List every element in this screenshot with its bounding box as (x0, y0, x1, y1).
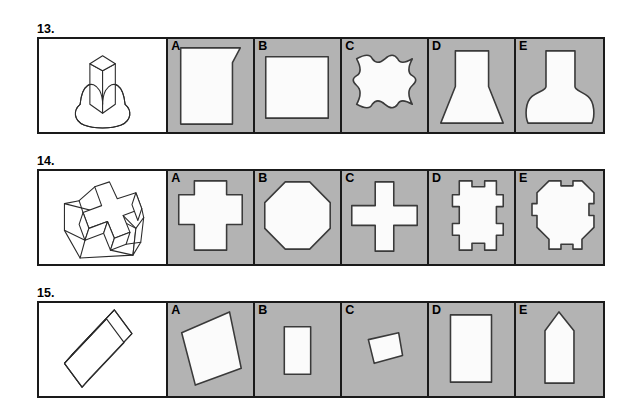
option-figure-b (255, 39, 340, 132)
option-panel-b[interactable]: B (255, 303, 342, 396)
option-figure-c (342, 39, 427, 132)
question-number: 13. (37, 22, 605, 37)
option-figure-a (168, 303, 253, 396)
option-letter: E (519, 303, 527, 317)
question-number: 15. (37, 286, 605, 301)
question-block-13: 13. A (37, 22, 605, 134)
option-figure-d (429, 171, 514, 264)
option-panel-a[interactable]: A (168, 39, 255, 132)
option-letter: C (345, 39, 354, 53)
option-letter: B (258, 303, 267, 317)
option-panel-c[interactable]: C (342, 39, 429, 132)
question-block-15: 15. A (37, 286, 605, 398)
stem-figure-slanted-slab (39, 303, 166, 396)
option-figure-b (255, 303, 340, 396)
option-letter: A (171, 39, 180, 53)
option-panel-d[interactable]: D (429, 303, 516, 396)
option-figure-d (429, 39, 514, 132)
option-letter: C (345, 171, 354, 185)
option-panel-e[interactable]: E (516, 171, 603, 264)
option-letter: D (432, 39, 441, 53)
stem-panel (39, 39, 168, 132)
option-panel-d[interactable]: D (429, 171, 516, 264)
question-row: A B C D (37, 37, 605, 134)
stem-figure-extruded-cross (39, 171, 166, 264)
option-letter: E (519, 171, 527, 185)
option-letter: A (171, 303, 180, 317)
option-figure-e (516, 39, 603, 132)
worksheet-sheet: 13. A (0, 0, 637, 415)
option-letter: C (345, 303, 354, 317)
option-letter: D (432, 171, 441, 185)
option-letter: D (432, 303, 441, 317)
option-figure-d (429, 303, 514, 396)
option-figure-c (342, 171, 427, 264)
option-panel-b[interactable]: B (255, 39, 342, 132)
option-letter: B (258, 39, 267, 53)
option-letter: B (258, 171, 267, 185)
option-figure-e (516, 171, 603, 264)
option-letter: E (519, 39, 527, 53)
stem-panel (39, 303, 168, 396)
option-figure-a (168, 171, 253, 264)
stem-panel (39, 171, 168, 264)
option-panel-a[interactable]: A (168, 171, 255, 264)
stem-figure-prism-on-dome (39, 39, 166, 132)
option-panel-a[interactable]: A (168, 303, 255, 396)
option-figure-c (342, 303, 427, 396)
option-panel-c[interactable]: C (342, 171, 429, 264)
option-figure-b (255, 171, 340, 264)
question-block-14: 14. (37, 154, 605, 266)
question-row: A B C D (37, 301, 605, 398)
option-figure-e (516, 303, 603, 396)
option-panel-b[interactable]: B (255, 171, 342, 264)
question-number: 14. (37, 154, 605, 169)
option-panel-c[interactable]: C (342, 303, 429, 396)
option-figure-a (168, 39, 253, 132)
question-row: A B C D (37, 169, 605, 266)
option-panel-e[interactable]: E (516, 303, 603, 396)
option-panel-e[interactable]: E (516, 39, 603, 132)
option-letter: A (171, 171, 180, 185)
option-panel-d[interactable]: D (429, 39, 516, 132)
